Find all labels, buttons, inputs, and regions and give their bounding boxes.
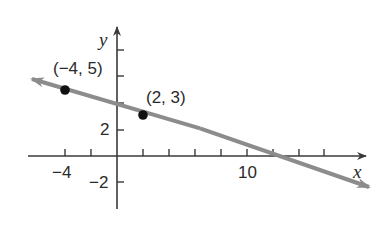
x-tick-label-neg4: −4 (52, 164, 71, 181)
y-tick-label-2: 2 (100, 121, 109, 138)
point-label-2: (2, 3) (146, 89, 186, 106)
point-2-3 (138, 110, 148, 120)
data-line (200, 128, 369, 187)
y-axis-label: y (99, 30, 107, 49)
x-ticks (65, 149, 324, 156)
point-label-1: (−4, 5) (53, 60, 103, 77)
x-axis-label: x (353, 162, 361, 181)
y-ticks (117, 50, 124, 182)
x-tick-label-10: 10 (238, 164, 257, 181)
y-tick-label-neg2: −2 (89, 174, 108, 191)
point-neg4-5 (60, 85, 70, 95)
